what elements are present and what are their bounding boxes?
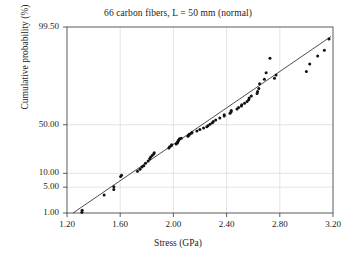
data-point (237, 106, 240, 109)
y-tick-label: 50.00 (17, 119, 59, 129)
data-point (202, 127, 205, 130)
data-point (258, 82, 261, 85)
data-point (144, 162, 147, 165)
data-point (250, 95, 253, 98)
x-tick-label: 1.20 (49, 219, 85, 229)
data-point (223, 113, 226, 116)
data-point (305, 70, 308, 73)
y-tick-label: 5.00 (17, 181, 59, 191)
data-point (243, 102, 246, 105)
data-point (180, 137, 183, 140)
data-point (265, 71, 268, 74)
data-point (316, 54, 319, 57)
x-tick-label: 1.60 (102, 219, 138, 229)
data-point (275, 74, 278, 77)
data-point (308, 63, 311, 66)
data-point (257, 87, 260, 90)
x-tick-label: 2.00 (155, 219, 191, 229)
data-point (263, 78, 266, 81)
axis-ticks (63, 27, 333, 217)
y-tick-label: 10.00 (17, 167, 59, 177)
data-point (153, 151, 156, 154)
data-point (323, 49, 326, 52)
y-tick-label: 1.00 (17, 207, 59, 217)
data-point (103, 194, 106, 197)
data-point (120, 174, 123, 177)
probability-plot-figure: 66 carbon fibers, L = 50 mm (normal) Cum… (0, 0, 356, 263)
data-point (142, 164, 145, 167)
data-point (268, 57, 271, 60)
data-point (256, 90, 259, 93)
data-point (112, 188, 115, 191)
data-point (328, 38, 331, 41)
data-point (198, 128, 201, 131)
x-tick-label: 3.20 (315, 219, 351, 229)
y-tick-label: 99.50 (17, 21, 59, 31)
data-point (112, 185, 115, 188)
x-tick-label: 2.80 (262, 219, 298, 229)
gridlines (67, 27, 333, 213)
data-point (214, 118, 217, 121)
data-point (191, 131, 194, 134)
plot-frame (67, 27, 333, 213)
data-point (170, 143, 173, 146)
data-point (230, 109, 233, 112)
x-tick-label: 2.40 (209, 219, 245, 229)
data-point (218, 117, 221, 120)
data-point (195, 129, 198, 132)
data-point (81, 209, 84, 212)
data-point (136, 170, 139, 173)
data-point (273, 77, 276, 80)
data-point (240, 103, 243, 106)
